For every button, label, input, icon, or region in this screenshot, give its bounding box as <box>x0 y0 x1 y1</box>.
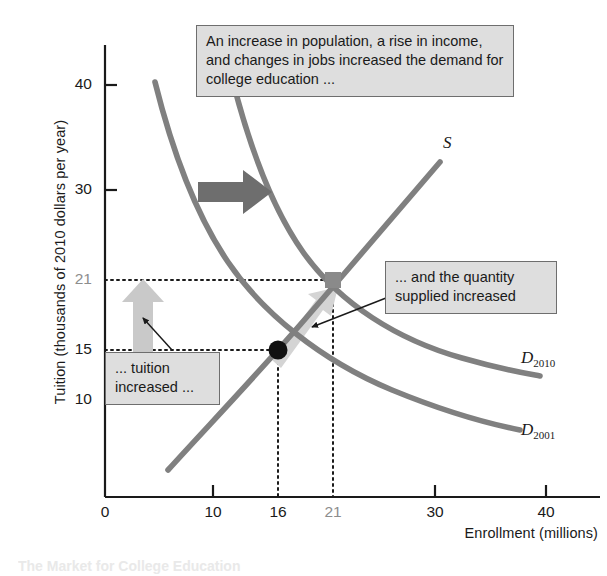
economics-figure: Tuition (thousands of 2010 dollars per y… <box>0 0 607 576</box>
equilibrium-point-new <box>325 272 341 288</box>
y-tick-label-30: 30 <box>48 180 92 198</box>
curve-label-demand-2001-base: D <box>521 420 533 439</box>
curve-label-demand-2001-sub: 2001 <box>533 429 555 441</box>
y-tick-label-15: 15 <box>48 340 92 358</box>
x-axis-ticks <box>213 485 546 497</box>
callout-quantity-supplied: ... and the quantity supplied increased <box>385 261 557 314</box>
supply-curve <box>168 162 440 470</box>
figure-caption: The Market for College Education <box>18 558 438 576</box>
price-increase-arrow <box>122 279 164 352</box>
curve-label-demand-2010-sub: 2010 <box>533 357 555 369</box>
x-tick-label-40: 40 <box>523 503 569 521</box>
x-tick-label-21: 21 <box>310 503 356 521</box>
x-tick-label-30: 30 <box>412 503 458 521</box>
curve-label-supply: S <box>443 133 452 153</box>
demand-curve-2010 <box>233 82 540 376</box>
x-tick-label-0: 0 <box>82 503 128 521</box>
callout-tuition-increase: ... tuition increased ... <box>105 352 220 405</box>
curve-label-demand-2001: D2001 <box>521 420 555 441</box>
callout-demand-shift: An increase in population, a rise in inc… <box>196 25 514 97</box>
y-tick-label-21: 21 <box>48 270 92 288</box>
y-tick-label-10: 10 <box>48 390 92 408</box>
equilibrium-point-initial <box>269 341 288 360</box>
curve-label-demand-2010-base: D <box>521 348 533 367</box>
y-axis-title: Tuition (thousands of 2010 dollars per y… <box>52 52 68 472</box>
y-tick-label-40: 40 <box>48 75 92 93</box>
curve-label-demand-2010: D2010 <box>521 348 555 369</box>
x-tick-label-10: 10 <box>190 503 236 521</box>
x-axis-title: Enrollment (millions) <box>340 525 598 541</box>
x-tick-label-16: 16 <box>255 503 301 521</box>
